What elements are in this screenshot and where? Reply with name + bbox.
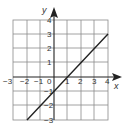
y-tick-labels: 4 3 2 1 −1 −2 −3 bbox=[44, 16, 54, 125]
x-tick-labels: −3 −2 −1 0 1 2 3 4 bbox=[3, 77, 110, 86]
y-tick-label: −1 bbox=[44, 87, 54, 96]
y-tick-label: 1 bbox=[47, 58, 52, 67]
axes bbox=[13, 12, 117, 120]
x-tick-label: −2 bbox=[20, 77, 30, 86]
y-tick-label: −3 bbox=[44, 116, 54, 125]
x-tick-label: −1 bbox=[34, 77, 44, 86]
y-tick-label: 2 bbox=[47, 44, 52, 53]
y-tick-label: 4 bbox=[47, 16, 52, 25]
x-tick-label: 2 bbox=[78, 77, 83, 86]
grid bbox=[13, 20, 108, 120]
y-tick-label: 3 bbox=[47, 30, 52, 39]
x-tick-label: 3 bbox=[92, 77, 97, 86]
x-axis-label: x bbox=[113, 81, 119, 91]
y-axis-label: y bbox=[41, 5, 47, 15]
coordinate-plane: x y −3 −2 −1 0 1 2 3 4 4 3 2 1 −1 −2 −3 bbox=[0, 0, 130, 125]
x-tick-label: −3 bbox=[3, 77, 13, 86]
x-tick-label: 4 bbox=[105, 77, 110, 86]
x-tick-label: 0 bbox=[47, 77, 52, 86]
y-tick-label: −2 bbox=[44, 101, 54, 110]
